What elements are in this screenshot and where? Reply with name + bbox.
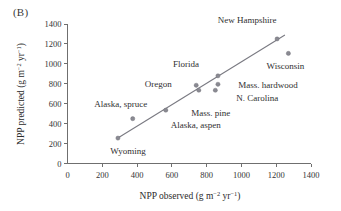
data-point [216, 74, 220, 78]
x-tick-label: 1200 [268, 170, 285, 180]
data-point-label: Mass. hardwood [238, 80, 298, 90]
data-point [164, 108, 168, 112]
data-point-label: Florida [173, 59, 199, 69]
figure-panel-b: (B) 0200400600800100012001400 0200400600… [0, 0, 341, 211]
x-tick-label: 800 [200, 170, 213, 180]
data-point [275, 37, 279, 41]
y-tick-label: 1400 [45, 19, 62, 29]
x-tick-label: 0 [65, 170, 69, 180]
data-point [213, 88, 217, 92]
x-tick-label: 600 [165, 170, 178, 180]
data-point-label: Mass. pine [191, 108, 230, 118]
data-point-label: Oregon [145, 79, 172, 89]
data-point-labels: WyomingAlaska, spruceAlaska, aspenOregon… [94, 15, 304, 156]
y-tick-label: 1000 [45, 59, 62, 69]
data-point [286, 51, 290, 55]
y-axis-tick-labels: 0200400600800100012001400 [45, 19, 62, 169]
x-tick-label: 1400 [303, 170, 320, 180]
data-point-label: Alaska, spruce [94, 99, 147, 109]
y-axis-title: NPP predicted (g m−2 yr−1) [15, 43, 27, 145]
x-axis-ticks [102, 164, 311, 168]
x-axis-tick-labels: 0200400600800100012001400 [65, 170, 319, 180]
x-axis-title: NPP observed (g m−2 yr−1) [140, 190, 241, 202]
data-point-label: Wyoming [110, 146, 146, 156]
data-point [216, 82, 220, 86]
data-point [131, 117, 135, 121]
data-point [116, 136, 120, 140]
y-tick-label: 1200 [45, 39, 62, 49]
data-point-label: Wisconsin [267, 61, 305, 71]
scatter-plot: 0200400600800100012001400 02004006008001… [0, 0, 341, 211]
y-tick-label: 800 [49, 79, 62, 89]
data-point-label: Alaska, aspen [171, 120, 221, 130]
y-tick-label: 600 [49, 99, 62, 109]
y-tick-label: 400 [49, 119, 62, 129]
y-tick-label: 0 [57, 159, 61, 169]
data-point-label: New Hampshire [218, 15, 277, 25]
x-tick-label: 200 [96, 170, 109, 180]
data-point [197, 88, 201, 92]
data-point-label: N. Carolina [236, 93, 278, 103]
x-tick-label: 400 [131, 170, 144, 180]
y-axis-ticks [64, 24, 68, 164]
data-point [194, 83, 198, 87]
y-tick-label: 200 [49, 139, 62, 149]
x-tick-label: 1000 [233, 170, 250, 180]
